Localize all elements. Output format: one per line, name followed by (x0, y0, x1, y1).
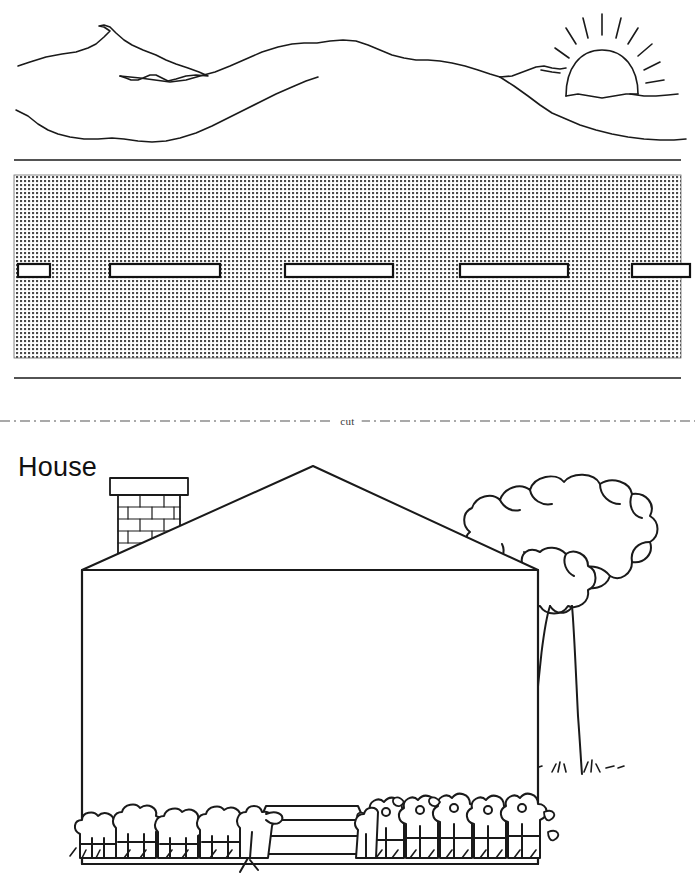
mid-ridge-path (120, 40, 500, 82)
sun-rays-group (555, 14, 664, 83)
grass-blade (606, 766, 624, 768)
foreground-slope-path (16, 77, 318, 142)
mountain-sunrise-scene (0, 0, 695, 160)
wall-window-strip (285, 264, 393, 277)
right-flower-group (357, 794, 558, 858)
foreground-slope-right-path (500, 77, 686, 140)
flower-center (416, 806, 424, 814)
flower-center (484, 806, 492, 814)
wall-window-strip (110, 264, 220, 277)
cut-label: cut (333, 415, 362, 427)
sun-ray-7 (638, 44, 652, 56)
wall-window-strip (18, 264, 50, 277)
chimney-cap (110, 478, 188, 495)
grass-tuft (552, 762, 566, 772)
tree-trunk-right (572, 606, 582, 774)
worksheet-page: cut House (0, 0, 695, 886)
rising-sun-dome (566, 50, 638, 96)
sun-ray-8 (644, 62, 660, 70)
wall-window-strip (460, 264, 568, 277)
sun-base-line (566, 94, 638, 98)
sun-ray-3 (583, 18, 588, 38)
house-scene: House (0, 446, 695, 886)
right-edge-shrub (355, 808, 378, 858)
flower-center (518, 804, 526, 812)
sun-ray-1 (555, 48, 569, 58)
bush (155, 809, 204, 858)
back-ridge-path (18, 25, 208, 81)
flower-center (382, 808, 390, 816)
sun-ray-9 (646, 80, 664, 83)
sun-ray-5 (616, 18, 621, 38)
mountain-sunrise-svg (0, 0, 695, 160)
cut-divider: cut (0, 405, 695, 445)
house-svg (0, 446, 695, 886)
textured-wall-band (0, 148, 695, 398)
wall-window-strip (632, 264, 690, 277)
sun-ray-6 (628, 28, 638, 44)
bush-leaf (266, 812, 282, 823)
right-ridge-notch (541, 70, 560, 73)
bush (113, 805, 162, 858)
sun-ray-2 (566, 28, 576, 44)
right-ridge-path (500, 66, 566, 77)
wall-band-svg (0, 148, 695, 398)
page-title: House (18, 452, 97, 483)
flower-center (450, 804, 458, 812)
grass-tuft (584, 760, 600, 772)
